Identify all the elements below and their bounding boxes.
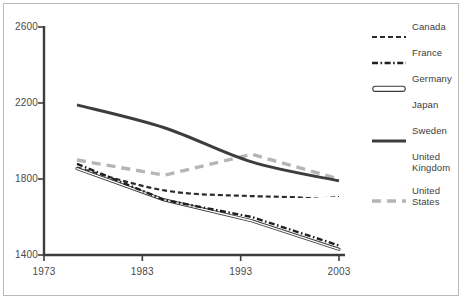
legend-label: France — [412, 47, 442, 58]
y-tick-label: 2600 — [4, 21, 38, 32]
legend-item[interactable]: France — [372, 44, 458, 70]
legend-item[interactable]: Canada — [372, 18, 458, 44]
legend-label: United States — [412, 185, 440, 207]
axis-group — [38, 26, 345, 261]
series-line-united-states — [77, 154, 339, 179]
japan-blank-swatch — [372, 105, 406, 113]
series-group — [77, 105, 339, 249]
us-dashed-swatch-graphic — [372, 197, 406, 205]
legend-item[interactable]: Sweden — [372, 122, 458, 148]
legend-label: Canada — [412, 21, 446, 32]
canada-dashed-swatch-graphic — [372, 33, 406, 41]
legend-label: United Kingdom — [412, 151, 450, 173]
france-dashdot-swatch-graphic — [372, 59, 406, 67]
legend-label: Germany — [412, 73, 452, 84]
germany-outline-swatch-shape — [373, 86, 405, 91]
sweden-solid-swatch-graphic — [372, 137, 406, 145]
y-tick-label: 2200 — [4, 97, 38, 108]
legend-item[interactable]: Germany — [372, 70, 458, 96]
france-dashdot-swatch — [372, 53, 406, 61]
germany-outline-swatch — [372, 79, 406, 87]
legend-label: Sweden — [412, 125, 447, 136]
canada-dashed-swatch — [372, 27, 406, 35]
uk-blank-swatch — [372, 157, 406, 165]
chart-screenshot: 2600220018001400 1973198319932003 Canada… — [0, 0, 463, 300]
us-dashed-swatch — [372, 191, 406, 199]
legend-item[interactable]: United States — [372, 182, 458, 216]
x-tick-label: 1993 — [221, 266, 261, 277]
sweden-solid-swatch — [372, 131, 406, 139]
chart-legend: CanadaFranceGermanyJapanSwedenUnited Kin… — [372, 18, 458, 216]
germany-outline-swatch-graphic — [372, 85, 406, 93]
x-tick-label: 1983 — [122, 266, 162, 277]
y-tick-label: 1800 — [4, 173, 38, 184]
legend-label: Japan — [412, 99, 438, 110]
legend-item[interactable]: United Kingdom — [372, 148, 458, 182]
x-tick-label: 1973 — [24, 266, 64, 277]
y-tick-label: 1400 — [4, 249, 38, 260]
x-tick-label: 2003 — [319, 266, 359, 277]
series-line-france — [77, 164, 339, 246]
legend-item[interactable]: Japan — [372, 96, 458, 122]
